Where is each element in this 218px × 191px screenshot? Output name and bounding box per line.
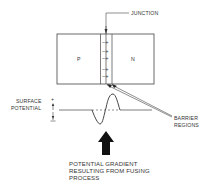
axis-down-arrowhead-icon <box>52 116 54 119</box>
pn-junction-diagram: JUNCTION −+ −+ −+ −+ −+ P N + SURFACE PO… <box>0 0 218 191</box>
junction-arrowhead-icon <box>105 29 108 34</box>
charge-pair: −+ <box>102 39 108 45</box>
gradient-arrow-icon <box>98 131 114 155</box>
barrier-label-line2: REGIONS <box>174 122 199 128</box>
charge-pair: −+ <box>102 73 108 79</box>
junction-label: JUNCTION <box>131 10 159 16</box>
barrier-leader-2 <box>112 85 172 116</box>
n-region-label: N <box>131 56 135 62</box>
surface-label-line1: SURFACE <box>16 98 42 104</box>
junction-charges: −+ −+ −+ −+ −+ <box>102 39 108 79</box>
charge-pair: −+ <box>102 66 108 72</box>
surface-label-line2: POTENTIAL <box>11 105 41 111</box>
caption-line2: RESULTING FROM FUSING <box>69 168 150 174</box>
potential-curve <box>92 94 120 124</box>
barrier-label-line1: BARRIER <box>174 115 198 121</box>
axis-up-arrowhead-icon <box>52 103 54 106</box>
caption-line1: POTENTIAL GRADIENT <box>69 161 138 167</box>
charge-pair: −+ <box>102 55 108 61</box>
junction-leader-line <box>106 13 129 30</box>
charge-pair: −+ <box>102 48 108 54</box>
p-region-label: P <box>77 56 81 62</box>
caption-line3: PROCESS <box>69 175 99 181</box>
barrier-leader-1 <box>107 85 172 117</box>
plus-sign: + <box>51 96 54 102</box>
